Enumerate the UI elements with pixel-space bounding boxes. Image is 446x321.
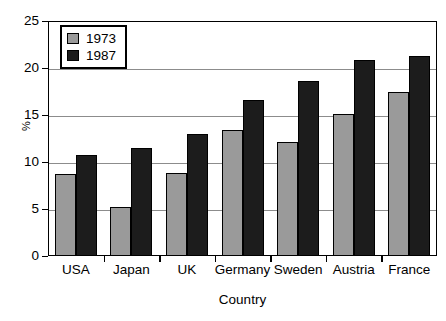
x-tick-label: Japan xyxy=(104,261,160,278)
x-tick-label: Germany xyxy=(215,261,271,278)
y-tick-label: 15 xyxy=(24,107,39,122)
bar[interactable] xyxy=(243,100,264,256)
legend-swatch-icon xyxy=(67,50,79,61)
bar[interactable] xyxy=(166,173,187,256)
bar-group xyxy=(215,21,271,256)
legend-label: 1987 xyxy=(86,48,116,63)
bar[interactable] xyxy=(110,207,131,256)
bar[interactable] xyxy=(55,174,76,256)
x-tick-label: USA xyxy=(48,261,104,278)
bar[interactable] xyxy=(187,134,208,256)
bar[interactable] xyxy=(222,130,243,256)
bar-chart: 25 20 15 10 5 0 % USAJapanUKGermanySwede… xyxy=(0,0,446,321)
bar[interactable] xyxy=(277,142,298,256)
y-tick-label: 20 xyxy=(24,60,39,75)
bar[interactable] xyxy=(298,81,319,256)
y-axis-title: % xyxy=(21,121,32,131)
legend-item-1987: 1987 xyxy=(67,47,116,64)
y-tick-label: 0 xyxy=(31,248,39,263)
bar[interactable] xyxy=(333,114,354,256)
y-tick-label: 25 xyxy=(24,13,39,28)
bar[interactable] xyxy=(131,148,152,256)
legend-label: 1973 xyxy=(86,31,116,46)
x-tick-label: Sweden xyxy=(270,261,326,278)
bar[interactable] xyxy=(409,56,430,256)
legend: 1973 1987 xyxy=(60,25,127,69)
x-axis-labels: USAJapanUKGermanySwedenAustriaFrance xyxy=(48,261,437,278)
y-tick-label: 10 xyxy=(24,154,39,169)
bar[interactable] xyxy=(388,92,409,256)
x-tick-label: UK xyxy=(159,261,215,278)
bar-group xyxy=(159,21,215,256)
x-axis-title: Country xyxy=(48,292,437,308)
bar[interactable] xyxy=(354,60,375,256)
x-tick-label: France xyxy=(381,261,437,278)
y-tick-label: 5 xyxy=(31,201,39,216)
legend-item-1973: 1973 xyxy=(67,30,116,47)
legend-swatch-icon xyxy=(67,33,79,44)
x-tick-label: Austria xyxy=(326,261,382,278)
bar-group xyxy=(270,21,326,256)
bar-group xyxy=(326,21,382,256)
bar[interactable] xyxy=(76,155,97,256)
bar-group xyxy=(381,21,437,256)
